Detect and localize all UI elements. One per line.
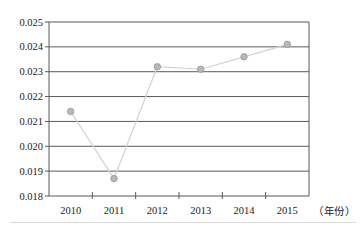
data-point [154, 64, 160, 70]
y-tick-label: 0.021 [19, 116, 43, 127]
y-tick-label: 0.024 [19, 41, 43, 52]
chart-canvas: 0.0180.0190.0200.0210.0220.0230.0240.025… [0, 0, 361, 228]
x-tick-label: 2012 [147, 205, 168, 216]
data-point [197, 66, 203, 72]
data-point [241, 54, 247, 60]
y-tick-label: 0.023 [19, 66, 43, 77]
data-point [284, 41, 290, 47]
y-tick-label: 0.020 [19, 141, 43, 152]
data-line [71, 44, 288, 178]
data-point [111, 175, 117, 181]
footer-rule [10, 222, 356, 223]
y-tick-label: 0.019 [19, 166, 43, 177]
x-tick-label: 2010 [60, 205, 81, 216]
data-point [67, 108, 73, 114]
y-tick-label: 0.025 [19, 17, 43, 28]
line-chart-figure: 0.0180.0190.0200.0210.0220.0230.0240.025… [0, 0, 361, 228]
x-tick-label: 2015 [277, 205, 298, 216]
x-tick-label: 2014 [234, 205, 256, 216]
x-tick-label: 2011 [104, 205, 125, 216]
x-axis-unit-label: （年份） [313, 203, 355, 218]
y-tick-label: 0.018 [19, 191, 43, 202]
y-tick-label: 0.022 [19, 91, 43, 102]
x-tick-label: 2013 [190, 205, 211, 216]
